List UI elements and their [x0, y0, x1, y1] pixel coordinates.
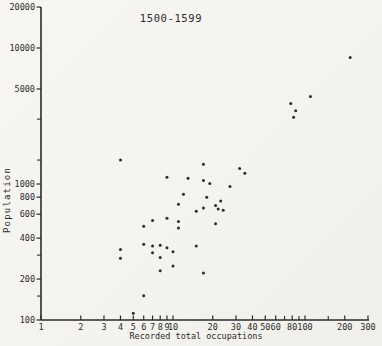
data-point [151, 245, 154, 248]
scanned-chart-page: 1234567891020304050608010020030010020040… [0, 0, 382, 346]
data-point [142, 294, 145, 297]
x-tick-label: 200 [337, 322, 352, 332]
data-point [177, 226, 180, 229]
data-point [228, 185, 231, 188]
data-point [219, 199, 222, 202]
x-axis-label: Recorded total occupations [129, 331, 262, 341]
data-point [132, 312, 135, 315]
data-point [243, 172, 246, 175]
scatter-plot-svg: 1234567891020304050608010020030010020040… [0, 0, 382, 346]
y-tick-label: 100 [20, 315, 35, 325]
data-point [159, 244, 162, 247]
data-point [195, 245, 198, 248]
x-tick-label: 100 [297, 322, 312, 332]
data-point [214, 222, 217, 225]
x-tick-label: 300 [360, 322, 375, 332]
data-point [159, 269, 162, 272]
x-tick-label: 4 [118, 322, 123, 332]
data-point [177, 220, 180, 223]
y-tick-label: 1000 [15, 179, 35, 189]
data-point [119, 257, 122, 260]
y-tick-label: 200 [20, 274, 35, 284]
y-tick-label: 800 [20, 192, 35, 202]
data-point [294, 109, 297, 112]
data-point [292, 116, 295, 119]
data-point [177, 203, 180, 206]
data-point [202, 271, 205, 274]
data-point [202, 207, 205, 210]
data-point [119, 248, 122, 251]
data-point [214, 204, 217, 207]
data-point [195, 210, 198, 213]
x-tick-label: 2 [78, 322, 83, 332]
chart-title: 1500-1599 [140, 12, 202, 24]
y-tick-label: 10000 [9, 43, 35, 53]
data-point [142, 225, 145, 228]
data-point [289, 102, 292, 105]
data-point [172, 264, 175, 267]
data-point [309, 95, 312, 98]
x-tick-label: 60 [271, 322, 281, 332]
data-point [142, 243, 145, 246]
data-point [222, 209, 225, 212]
data-point [238, 167, 241, 170]
data-point [187, 177, 190, 180]
data-point [208, 182, 211, 185]
x-tick-label: 80 [287, 322, 297, 332]
x-tick-label: 1 [38, 322, 43, 332]
data-point [165, 246, 168, 249]
y-tick-label: 600 [20, 209, 35, 219]
data-point [202, 179, 205, 182]
data-point [182, 193, 185, 196]
data-point [159, 256, 162, 259]
data-point [165, 176, 168, 179]
data-point [349, 56, 352, 59]
data-point [151, 219, 154, 222]
y-tick-label: 400 [20, 233, 35, 243]
y-tick-label: 5000 [15, 84, 35, 94]
data-point [205, 196, 208, 199]
data-point [172, 250, 175, 253]
y-tick-label: 20000 [9, 2, 35, 12]
y-axis-label: Population [2, 167, 12, 233]
data-point [119, 159, 122, 162]
x-tick-label: 3 [101, 322, 106, 332]
data-point [217, 207, 220, 210]
data-point [202, 163, 205, 166]
data-point [151, 251, 154, 254]
data-point [165, 217, 168, 220]
